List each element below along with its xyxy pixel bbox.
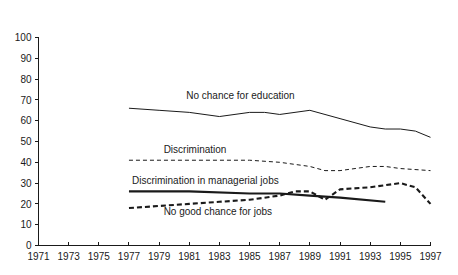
x-tick-label: 1979: [148, 251, 171, 262]
x-tick-label: 1987: [269, 251, 292, 262]
y-tick-label: 40: [20, 157, 32, 168]
y-tick-label: 10: [20, 219, 32, 230]
chart-series-annotations: No chance for educationDiscriminationDis…: [132, 90, 295, 217]
series-line-2: [129, 191, 385, 201]
x-tick-label: 1995: [389, 251, 412, 262]
x-tick-label: 1983: [208, 251, 231, 262]
series-label-1: Discrimination: [164, 144, 227, 155]
x-axis-tick-labels: 1971197319751977197919811983198519871989…: [27, 251, 442, 262]
line-chart: 0102030405060708090100 19711973197519771…: [0, 0, 458, 275]
y-tick-label: 80: [20, 74, 32, 85]
series-line-3: [129, 183, 431, 208]
y-tick-label: 50: [20, 136, 32, 147]
y-tick-label: 90: [20, 53, 32, 64]
y-tick-label: 70: [20, 95, 32, 106]
x-tick-label: 1973: [58, 251, 81, 262]
y-tick-label: 100: [15, 32, 32, 43]
series-label-0: No chance for education: [186, 90, 294, 101]
x-tick-label: 1993: [359, 251, 382, 262]
x-tick-label: 1981: [178, 251, 201, 262]
x-tick-label: 1989: [299, 251, 322, 262]
y-tick-label: 30: [20, 178, 32, 189]
series-label-3: No good chance for jobs: [164, 206, 272, 217]
y-tick-label: 60: [20, 115, 32, 126]
x-tick-label: 1991: [329, 251, 352, 262]
series-label-2: Discrimination in managerial jobs: [132, 175, 279, 186]
x-tick-label: 1997: [419, 251, 442, 262]
y-axis-tick-labels: 0102030405060708090100: [15, 32, 32, 251]
x-tick-label: 1985: [238, 251, 261, 262]
series-line-0: [129, 108, 431, 137]
x-tick-label: 1971: [27, 251, 50, 262]
chart-container: 0102030405060708090100 19711973197519771…: [0, 0, 458, 275]
series-line-1: [129, 160, 431, 170]
y-tick-label: 20: [20, 199, 32, 210]
x-tick-label: 1977: [118, 251, 141, 262]
y-tick-label: 0: [26, 240, 32, 251]
x-tick-label: 1975: [88, 251, 111, 262]
chart-series-lines: [129, 108, 431, 208]
